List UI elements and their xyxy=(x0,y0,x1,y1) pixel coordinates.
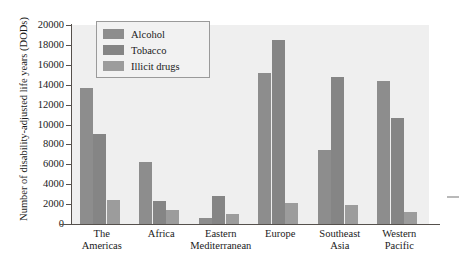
x-category-label: WesternPacific xyxy=(356,228,444,252)
y-tick-label: 12000 xyxy=(24,100,64,110)
legend-label: Alcohol xyxy=(131,29,165,40)
y-tick-label: 4000 xyxy=(24,179,64,189)
bar-group xyxy=(318,25,358,224)
y-tick-mark xyxy=(66,65,72,66)
bar-tobacco xyxy=(272,40,285,224)
y-tick-mark xyxy=(66,25,72,26)
bar-illicit xyxy=(345,205,358,224)
legend-swatch-icon xyxy=(103,61,124,71)
y-tick-mark xyxy=(66,224,72,225)
bar-illicit xyxy=(166,210,179,224)
legend-item[interactable]: Tobacco xyxy=(103,42,203,58)
bar-tobacco xyxy=(331,77,344,224)
y-tick-mark xyxy=(66,125,72,126)
legend-item[interactable]: Alcohol xyxy=(103,26,203,42)
bar-chart-figure: Number of disability-adjusted life years… xyxy=(0,0,464,262)
bar-illicit xyxy=(226,214,239,224)
legend-label: Tobacco xyxy=(131,45,166,56)
bar-alcohol xyxy=(318,150,331,224)
y-tick-mark xyxy=(66,105,72,106)
y-tick-mark xyxy=(66,45,72,46)
bar-alcohol xyxy=(80,88,93,224)
y-tick-mark xyxy=(66,144,72,145)
bar-group xyxy=(258,25,298,224)
bar-tobacco xyxy=(153,201,166,224)
bar-illicit xyxy=(404,212,417,224)
y-tick-mark xyxy=(66,85,72,86)
bar-alcohol xyxy=(139,162,152,224)
y-tick-label: 20000 xyxy=(24,20,64,30)
y-axis-tick-labels: 2000018000160001400012000100008000600040… xyxy=(20,0,64,262)
bar-illicit xyxy=(107,200,120,224)
bar-tobacco xyxy=(212,196,225,224)
y-tick-label: 6000 xyxy=(24,159,64,169)
y-tick-label: 8000 xyxy=(24,139,64,149)
legend-label: Illicit drugs xyxy=(131,61,180,72)
bar-group xyxy=(377,25,417,224)
bar-alcohol xyxy=(377,81,390,224)
y-tick-label: 16000 xyxy=(24,60,64,70)
y-tick-mark xyxy=(66,184,72,185)
bar-tobacco xyxy=(93,134,106,224)
bar-tobacco xyxy=(391,118,404,224)
chart-legend: AlcoholTobaccoIllicit drugs xyxy=(96,21,210,78)
y-tick-label: 2000 xyxy=(24,199,64,209)
bar-alcohol xyxy=(258,73,271,224)
y-tick-label: 14000 xyxy=(24,80,64,90)
y-tick-label: 18000 xyxy=(24,40,64,50)
legend-swatch-icon xyxy=(103,29,124,39)
bar-illicit xyxy=(285,203,298,224)
y-tick-label: 10000 xyxy=(24,120,64,130)
legend-item[interactable]: Illicit drugs xyxy=(103,58,203,74)
x-axis-line xyxy=(60,224,440,225)
y-tick-mark xyxy=(66,204,72,205)
legend-swatch-icon xyxy=(103,45,124,55)
y-tick-mark xyxy=(66,164,72,165)
scan-artifact xyxy=(447,196,459,198)
